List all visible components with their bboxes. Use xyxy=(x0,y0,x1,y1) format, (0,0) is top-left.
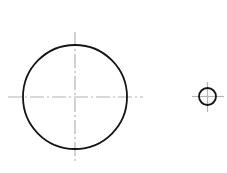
drawing-canvas xyxy=(0,0,227,173)
canvas-background xyxy=(0,0,227,173)
drawing-svg xyxy=(0,0,227,173)
